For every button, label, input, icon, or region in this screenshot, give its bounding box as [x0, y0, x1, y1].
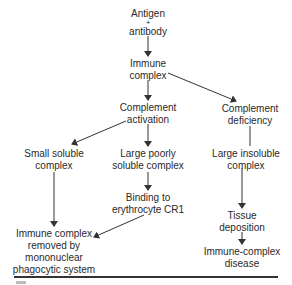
- node-label: Complement: [222, 103, 279, 115]
- node-label: phagocytic system: [13, 264, 95, 276]
- edge-activation-to-small-soluble: [72, 121, 126, 144]
- node-label: Immune complex: [13, 228, 95, 240]
- node-label: Binding to: [112, 192, 184, 204]
- node-label: complex: [129, 70, 166, 82]
- node-complement-deficiency: Complement deficiency: [222, 103, 279, 127]
- edge-binding-to-removed: [94, 215, 144, 237]
- node-label: Immune-complex: [204, 246, 281, 258]
- node-tissue-deposition: Tissue deposition: [219, 210, 265, 234]
- node-label: Small soluble: [24, 148, 83, 160]
- node-removed-by-mps: Immune complex removed by mononuclear ph…: [13, 228, 95, 276]
- node-complement-activation: Complement activation: [120, 102, 177, 126]
- edge-immune-complex-to-deficiency: [168, 73, 236, 101]
- node-large-poorly-soluble-complex: Large poorly soluble complex: [112, 148, 184, 172]
- node-label: soluble complex: [112, 160, 184, 172]
- node-large-insoluble-complex: Large insoluble complex: [212, 148, 280, 172]
- node-label: activation: [120, 114, 177, 126]
- node-binding-erythrocyte-cr1: Binding to erythrocyte CR1: [112, 192, 184, 216]
- node-label: complex: [212, 160, 280, 172]
- node-label: Large poorly: [112, 148, 184, 160]
- node-label: complex: [24, 160, 83, 172]
- node-label: removed by: [13, 240, 95, 252]
- node-label: disease: [204, 258, 281, 270]
- node-label: Large insoluble: [212, 148, 280, 160]
- node-label: antibody: [129, 26, 167, 38]
- node-label: mononuclear: [13, 252, 95, 264]
- node-label: Complement: [120, 102, 177, 114]
- node-label: Immune: [129, 58, 166, 70]
- bottom-divider: [14, 276, 278, 278]
- node-immune-complex: Immune complex: [129, 58, 166, 82]
- node-small-soluble-complex: Small soluble complex: [24, 148, 83, 172]
- node-label: deficiency: [222, 115, 279, 127]
- node-label: Tissue: [219, 210, 265, 222]
- caption-fragment: [16, 281, 26, 284]
- node-antigen-antibody: Antigen + antibody: [129, 8, 167, 38]
- node-label: deposition: [219, 222, 265, 234]
- node-label: erythrocyte CR1: [112, 204, 184, 216]
- node-immune-complex-disease: Immune-complex disease: [204, 246, 281, 270]
